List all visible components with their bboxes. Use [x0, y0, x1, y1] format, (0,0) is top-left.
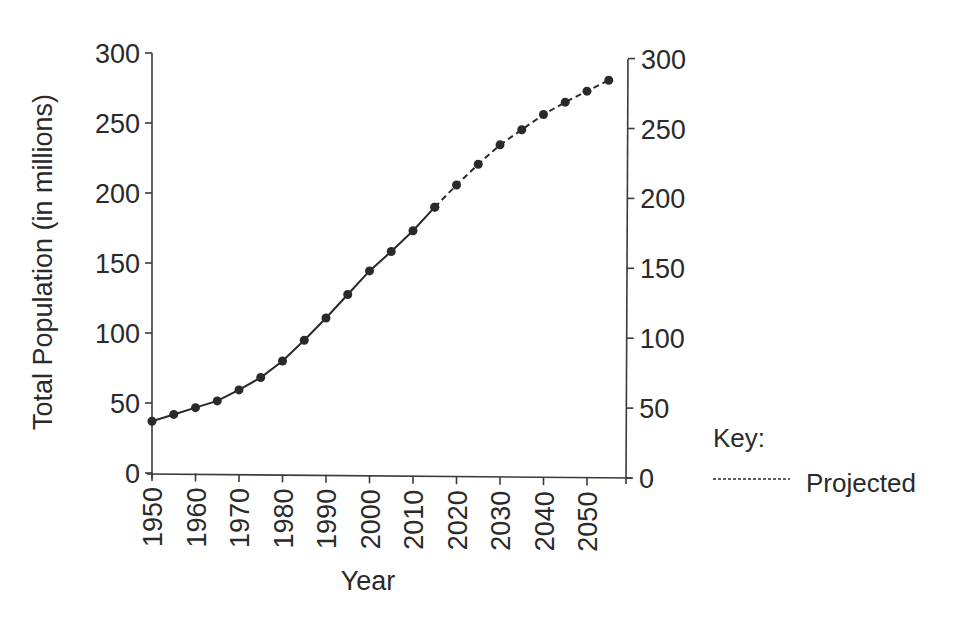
x-tick-label: 2010	[399, 490, 429, 550]
data-point	[365, 266, 374, 275]
data-point	[452, 181, 461, 190]
x-ticks: 1950196019701980199020002010202020302040…	[138, 473, 603, 552]
right-tick-label: 300	[641, 45, 686, 75]
data-point	[517, 125, 526, 134]
x-tick-label: 2050	[573, 492, 603, 552]
data-point	[191, 403, 200, 412]
left-tick-label: 150	[95, 249, 140, 279]
data-point	[169, 410, 178, 419]
data-point	[300, 336, 309, 345]
x-tick-label: 1950	[138, 487, 168, 547]
left-y-ticks: 050100150200250300	[95, 39, 152, 489]
data-point	[213, 396, 222, 405]
x-tick-label: 1960	[182, 487, 212, 547]
left-tick-label: 250	[95, 109, 140, 139]
data-point	[496, 140, 505, 149]
data-point	[409, 226, 418, 235]
x-tick-label: 2040	[530, 491, 560, 551]
legend: Key: Projected	[713, 423, 916, 498]
x-tick-label: 1990	[312, 489, 342, 549]
data-point	[322, 314, 331, 323]
x-tick-label: 2000	[356, 489, 386, 549]
right-y-axis	[626, 59, 628, 484]
left-tick-label: 0	[125, 459, 140, 489]
x-tick-label: 2030	[486, 491, 516, 551]
x-axis	[147, 474, 632, 478]
x-tick-label: 2020	[443, 490, 473, 550]
data-point	[343, 290, 352, 299]
y-axis-label: Total Population (in millions)	[28, 94, 58, 430]
right-tick-label: 50	[639, 394, 669, 424]
series-line-projected	[435, 80, 609, 207]
series-line-actual	[152, 207, 435, 421]
left-tick-label: 300	[95, 39, 140, 69]
x-tick-label: 1970	[225, 488, 255, 548]
right-tick-label: 200	[640, 184, 685, 214]
data-point	[256, 373, 265, 382]
data-point	[561, 98, 570, 107]
right-tick-label: 150	[640, 254, 685, 284]
legend-entry-projected: Projected	[806, 468, 916, 498]
left-tick-label: 200	[95, 179, 140, 209]
right-tick-label: 100	[640, 324, 685, 354]
data-point	[387, 247, 396, 256]
data-point	[604, 76, 613, 85]
data-point	[539, 110, 548, 119]
data-point	[278, 356, 287, 365]
left-tick-label: 50	[110, 389, 140, 419]
data-point	[474, 160, 483, 169]
series-group	[148, 76, 614, 426]
data-point	[583, 87, 592, 96]
left-tick-label: 100	[95, 319, 140, 349]
x-tick-label: 1980	[269, 488, 299, 548]
population-line-chart: Total Population (in millions) 050100150…	[0, 0, 961, 628]
data-point	[235, 385, 244, 394]
legend-title: Key:	[713, 423, 765, 453]
right-y-ticks: 050100150200250300	[626, 45, 686, 494]
x-axis-label: Year	[341, 566, 396, 596]
data-point	[430, 203, 439, 212]
data-point	[148, 417, 157, 426]
right-tick-label: 250	[641, 115, 686, 145]
right-tick-label: 0	[639, 464, 654, 494]
